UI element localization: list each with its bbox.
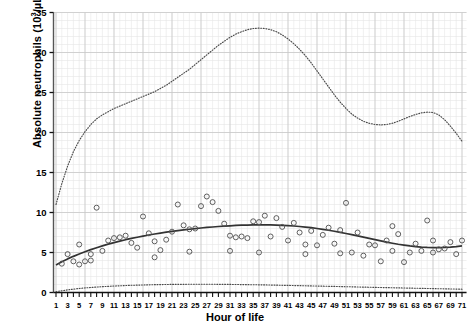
x-tick-label: 49	[330, 301, 338, 310]
x-tick-label: 57	[377, 301, 385, 310]
x-tick-label: 29	[214, 301, 222, 310]
x-tick-label: 71	[458, 301, 467, 310]
y-tick-label: 30	[36, 47, 47, 58]
x-tick-label: 13	[121, 301, 129, 310]
x-tick-label: 33	[237, 301, 245, 310]
y-tick-label: 0	[41, 287, 46, 298]
x-tick-label: 3	[65, 301, 69, 310]
x-tick-label: 55	[365, 301, 374, 310]
x-tick-label: 59	[388, 301, 396, 310]
x-tick-label: 21	[168, 301, 177, 310]
x-tick-label: 65	[423, 301, 432, 310]
x-tick-label: 23	[179, 301, 187, 310]
x-tick-label: 11	[110, 301, 119, 310]
x-tick-label: 9	[100, 301, 104, 310]
y-tick-label: 5	[41, 247, 47, 258]
chart-figure: Absolute neutrophils (103/µL) Hour of li…	[0, 0, 470, 328]
x-tick-label: 35	[249, 301, 258, 310]
x-tick-label: 31	[226, 301, 235, 310]
scatter-plot: 05101520253035 1357911131517192123252729…	[0, 0, 470, 328]
x-tick-label: 67	[435, 301, 443, 310]
y-tick-label: 15	[36, 167, 47, 178]
x-tick-label: 37	[261, 301, 269, 310]
y-tick-label: 10	[36, 207, 47, 218]
y-axis-tick-labels: 05101520253035	[36, 7, 47, 298]
x-tick-label: 19	[156, 301, 164, 310]
x-tick-label: 45	[307, 301, 316, 310]
x-tick-label: 1	[54, 301, 59, 310]
x-tick-label: 27	[203, 301, 211, 310]
x-tick-label: 41	[284, 301, 293, 310]
x-tick-label: 51	[342, 301, 351, 310]
x-tick-label: 7	[89, 301, 93, 310]
x-tick-label: 63	[411, 301, 419, 310]
x-tick-label: 25	[191, 301, 200, 310]
x-tick-label: 17	[145, 301, 153, 310]
y-tick-label: 20	[36, 127, 47, 138]
x-tick-label: 39	[272, 301, 280, 310]
x-tick-label: 53	[353, 301, 361, 310]
y-tick-label: 35	[36, 7, 47, 18]
x-tick-label: 47	[319, 301, 327, 310]
x-tick-label: 5	[77, 301, 82, 310]
x-tick-label: 61	[400, 301, 409, 310]
x-tick-label: 69	[446, 301, 454, 310]
x-tick-label: 43	[295, 301, 303, 310]
y-tick-label: 25	[36, 87, 47, 98]
x-axis-tick-labels: 1357911131517192123252729313335373941434…	[54, 301, 467, 310]
x-tick-label: 15	[133, 301, 142, 310]
